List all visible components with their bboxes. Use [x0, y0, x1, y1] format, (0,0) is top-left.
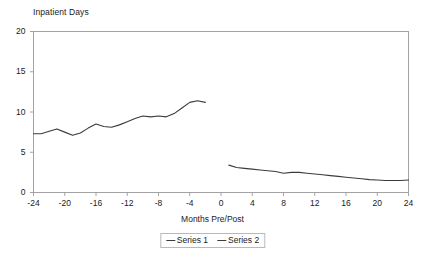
- x-tick-label: -20: [52, 198, 78, 208]
- x-tick-label: -12: [114, 198, 140, 208]
- x-tick-label: -8: [146, 198, 172, 208]
- x-tick-label: -24: [21, 198, 47, 208]
- legend-label: Series 2: [228, 235, 259, 245]
- x-tick-label: 8: [271, 198, 297, 208]
- x-tick-label: 20: [364, 198, 390, 208]
- legend-line-icon: [217, 240, 226, 241]
- legend-label: Series 1: [177, 235, 208, 245]
- chart-legend: Series 1Series 2: [160, 233, 265, 248]
- x-tick-label: 0: [208, 198, 234, 208]
- series-line-1: [34, 101, 206, 136]
- legend-line-icon: [166, 240, 175, 241]
- y-tick-label: 20: [4, 26, 26, 36]
- legend-item[interactable]: Series 2: [217, 235, 259, 245]
- y-tick-label: 5: [4, 147, 26, 157]
- y-tick-label: 10: [4, 107, 26, 117]
- y-tick-label: 15: [4, 66, 26, 76]
- x-tick-label: 24: [396, 198, 422, 208]
- x-tick-label: 12: [302, 198, 328, 208]
- legend-item[interactable]: Series 1: [166, 235, 208, 245]
- chart-container: Inpatient Days 05101520 -24-20-16-12-8-4…: [0, 0, 425, 263]
- y-tick-label: 0: [4, 187, 26, 197]
- x-tick-label: -4: [177, 198, 203, 208]
- plot-frame: [34, 32, 409, 193]
- x-tick-label: 4: [239, 198, 265, 208]
- x-axis-title: Months Pre/Post: [0, 214, 425, 224]
- x-tick-label: 16: [333, 198, 359, 208]
- x-tick-label: -16: [83, 198, 109, 208]
- series-line-2: [229, 165, 409, 180]
